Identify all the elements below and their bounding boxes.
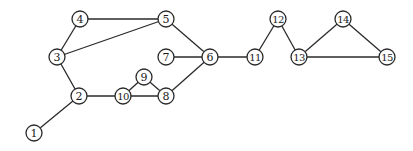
node-label: 5 <box>163 13 170 26</box>
edge-6-8 <box>166 57 210 96</box>
node-15: 15 <box>379 49 395 65</box>
node-label: 3 <box>54 51 61 64</box>
node-label: 12 <box>272 14 284 25</box>
node-2: 2 <box>71 88 87 104</box>
node-label: 4 <box>77 13 84 26</box>
node-5: 5 <box>158 11 174 27</box>
node-12: 12 <box>270 11 286 27</box>
node-4: 4 <box>72 11 88 27</box>
node-label: 11 <box>249 52 261 63</box>
nodes-layer: 123456789101112131415 <box>26 11 395 141</box>
node-label: 6 <box>207 51 214 64</box>
node-7: 7 <box>158 49 174 65</box>
node-label: 7 <box>163 51 170 64</box>
node-3: 3 <box>49 49 65 65</box>
node-13: 13 <box>291 49 307 65</box>
node-label: 9 <box>141 71 148 84</box>
node-6: 6 <box>202 49 218 65</box>
node-label: 14 <box>337 14 349 25</box>
edge-1-2 <box>34 96 79 133</box>
edges-layer <box>34 19 387 133</box>
node-9: 9 <box>136 69 152 85</box>
node-label: 10 <box>117 91 129 102</box>
node-label: 13 <box>293 52 305 63</box>
node-11: 11 <box>247 49 263 65</box>
node-10: 10 <box>115 88 131 104</box>
edge-3-5 <box>57 19 166 57</box>
node-label: 8 <box>163 90 170 103</box>
edge-5-6 <box>166 19 210 57</box>
graph-diagram: 123456789101112131415 <box>0 0 413 151</box>
node-14: 14 <box>335 11 351 27</box>
node-label: 2 <box>76 90 83 103</box>
node-label: 1 <box>31 127 38 140</box>
node-8: 8 <box>158 88 174 104</box>
node-1: 1 <box>26 125 42 141</box>
node-label: 15 <box>381 52 393 63</box>
